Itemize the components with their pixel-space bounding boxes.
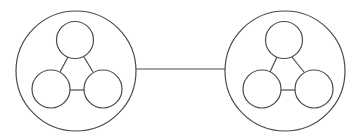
network-diagram — [0, 0, 356, 137]
